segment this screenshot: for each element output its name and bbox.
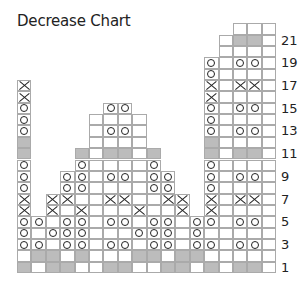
chart-title: Decrease Chart xyxy=(17,12,131,30)
chart-cell xyxy=(161,228,175,239)
purl-circle-icon xyxy=(121,127,129,135)
chart-cell xyxy=(17,262,31,273)
chart-cell xyxy=(75,228,89,239)
decrease-cross-icon xyxy=(47,206,58,215)
chart-cell xyxy=(161,171,175,182)
chart-cell xyxy=(233,23,247,34)
chart-cell xyxy=(161,250,175,261)
purl-circle-icon xyxy=(164,241,172,249)
purl-circle-icon xyxy=(207,218,215,226)
chart-cell xyxy=(204,194,218,205)
row-label: 17 xyxy=(281,79,298,92)
chart-cell xyxy=(233,114,247,125)
chart-cell xyxy=(175,194,189,205)
chart-cell xyxy=(219,137,233,148)
purl-circle-icon xyxy=(251,59,259,67)
chart-cell xyxy=(118,125,132,136)
chart-cell xyxy=(262,216,276,227)
purl-circle-icon xyxy=(135,229,143,237)
chart-cell xyxy=(89,148,103,159)
purl-circle-icon xyxy=(107,127,115,135)
chart-cell xyxy=(60,182,74,193)
decrease-cross-icon xyxy=(19,206,30,215)
chart-cell xyxy=(175,205,189,216)
chart-cell xyxy=(17,160,31,171)
purl-circle-icon xyxy=(193,241,201,249)
chart-cell xyxy=(262,114,276,125)
chart-cell xyxy=(89,125,103,136)
chart-cell xyxy=(161,216,175,227)
purl-circle-icon xyxy=(251,104,259,112)
chart-cell xyxy=(247,216,261,227)
chart-cell xyxy=(118,171,132,182)
chart-cell xyxy=(103,228,117,239)
decrease-cross-icon xyxy=(206,81,217,90)
chart-cell xyxy=(204,205,218,216)
chart-cell xyxy=(103,148,117,159)
decrease-cross-icon xyxy=(163,195,174,204)
chart-cell xyxy=(17,228,31,239)
decrease-cross-icon xyxy=(47,195,58,204)
chart-cell xyxy=(233,239,247,250)
purl-circle-icon xyxy=(20,116,28,124)
chart-cell xyxy=(233,125,247,136)
chart-cell xyxy=(204,114,218,125)
chart-cell xyxy=(204,137,218,148)
chart-cell xyxy=(103,114,117,125)
chart-cell xyxy=(147,250,161,261)
purl-circle-icon xyxy=(107,173,115,181)
purl-circle-icon xyxy=(207,104,215,112)
chart-cell xyxy=(75,148,89,159)
purl-circle-icon xyxy=(164,184,172,192)
chart-cell xyxy=(103,171,117,182)
purl-circle-icon xyxy=(164,229,172,237)
chart-cell xyxy=(233,216,247,227)
chart-cell xyxy=(118,148,132,159)
chart-cell xyxy=(103,137,117,148)
chart-cell xyxy=(233,262,247,273)
chart-cell xyxy=(233,80,247,91)
purl-circle-icon xyxy=(63,229,71,237)
decrease-cross-icon xyxy=(249,195,260,204)
chart-cell xyxy=(262,171,276,182)
chart-cell xyxy=(190,262,204,273)
purl-circle-icon xyxy=(107,104,115,112)
chart-cell xyxy=(204,160,218,171)
chart-cell xyxy=(262,80,276,91)
purl-circle-icon xyxy=(107,241,115,249)
chart-cell xyxy=(233,57,247,68)
row-label: 21 xyxy=(281,34,298,47)
chart-cell xyxy=(204,148,218,159)
decrease-cross-icon xyxy=(206,93,217,102)
chart-cell xyxy=(219,239,233,250)
chart-cell xyxy=(60,262,74,273)
chart-cell xyxy=(89,250,103,261)
purl-circle-icon xyxy=(121,104,129,112)
chart-cell xyxy=(233,194,247,205)
chart-cell xyxy=(147,194,161,205)
decrease-cross-icon xyxy=(119,195,130,204)
chart-cell xyxy=(89,228,103,239)
chart-cell xyxy=(219,205,233,216)
purl-circle-icon xyxy=(251,241,259,249)
chart-cell xyxy=(219,103,233,114)
purl-circle-icon xyxy=(20,104,28,112)
chart-cell xyxy=(262,194,276,205)
chart-cell xyxy=(247,46,261,57)
chart-cell xyxy=(132,228,146,239)
chart-cell xyxy=(233,69,247,80)
chart-cell xyxy=(190,250,204,261)
chart-cell xyxy=(175,239,189,250)
decrease-cross-icon xyxy=(206,206,217,215)
chart-cell xyxy=(31,216,45,227)
decrease-cross-icon xyxy=(249,81,260,90)
decrease-cross-icon xyxy=(177,195,188,204)
decrease-cross-icon xyxy=(206,195,217,204)
row-label: 13 xyxy=(281,124,298,137)
chart-cell xyxy=(75,216,89,227)
chart-cell xyxy=(118,228,132,239)
chart-cell xyxy=(247,23,261,34)
chart-cell xyxy=(219,194,233,205)
purl-circle-icon xyxy=(63,173,71,181)
chart-cell xyxy=(262,182,276,193)
